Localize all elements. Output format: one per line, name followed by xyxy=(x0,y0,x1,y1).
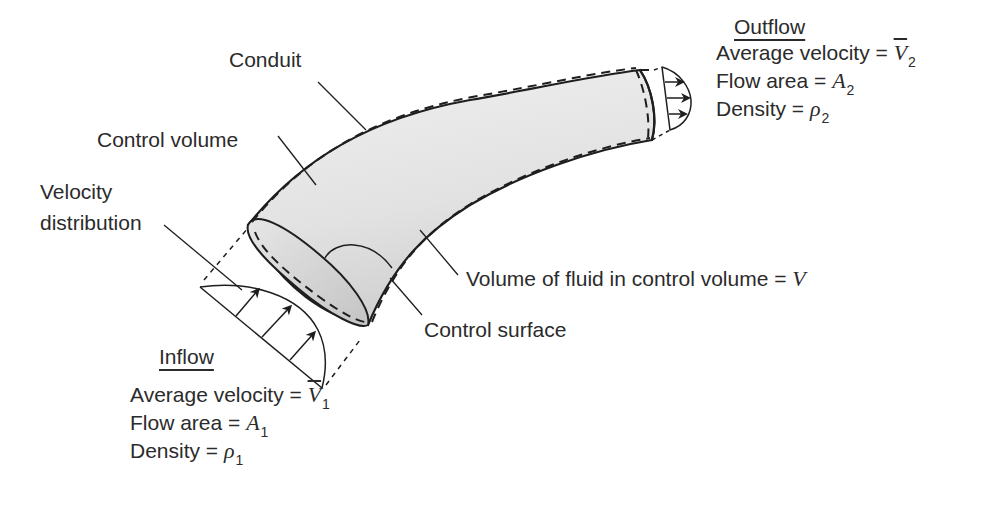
volume-of-fluid-text: Volume of fluid in control volume = xyxy=(466,267,786,290)
control-surface-label: Control surface xyxy=(424,318,566,342)
outflow-density-subscript: 2 xyxy=(822,110,830,126)
outflow-velocity-symbol: V xyxy=(894,40,907,65)
outflow-block: Outflow Average velocity = V2 Flow area … xyxy=(716,14,916,124)
inflow-area-label: Flow area = xyxy=(130,411,240,434)
inflow-density-symbol: ρ xyxy=(224,438,235,463)
volume-of-fluid-label: Volume of fluid in control volume = V xyxy=(466,267,806,291)
outflow-velocity-subscript: 2 xyxy=(908,54,916,70)
inflow-velocity-subscript: 1 xyxy=(322,396,330,412)
outflow-area-subscript: 2 xyxy=(847,82,855,98)
outflow-density-label: Density = xyxy=(716,97,804,120)
control-volume-label: Control volume xyxy=(97,128,238,152)
outflow-area-symbol: A xyxy=(832,68,845,93)
inflow-velocity-label: Average velocity = xyxy=(130,383,302,406)
inflow-area-symbol: A xyxy=(246,410,259,435)
outflow-area-row: Flow area = A2 xyxy=(716,68,916,96)
inflow-block: Inflow Average velocity = V1 Flow area =… xyxy=(130,344,330,466)
inflow-velocity-row: Average velocity = V1 xyxy=(130,382,330,410)
outflow-velocity-row: Average velocity = V2 xyxy=(716,40,916,68)
outflow-area-label: Flow area = xyxy=(716,69,826,92)
inflow-velocity-symbol: V xyxy=(308,382,321,407)
volume-symbol: V xyxy=(792,266,805,291)
inflow-density-row: Density = ρ1 xyxy=(130,438,330,466)
velocity-distribution-label-line2: distribution xyxy=(40,211,142,235)
inflow-heading: Inflow xyxy=(159,345,214,368)
outflow-velocity-label: Average velocity = xyxy=(716,41,888,64)
inflow-area-subscript: 1 xyxy=(261,424,269,440)
inflow-density-subscript: 1 xyxy=(236,452,244,468)
outflow-density-row: Density = ρ2 xyxy=(716,96,916,124)
inflow-area-row: Flow area = A1 xyxy=(130,410,330,438)
outflow-heading: Outflow xyxy=(734,15,805,38)
conduit-label: Conduit xyxy=(229,48,301,72)
velocity-distribution-label-line1: Velocity xyxy=(40,180,112,204)
inflow-density-label: Density = xyxy=(130,439,218,462)
outflow-density-symbol: ρ xyxy=(810,96,821,121)
outflow-velocity-profile xyxy=(652,67,691,140)
